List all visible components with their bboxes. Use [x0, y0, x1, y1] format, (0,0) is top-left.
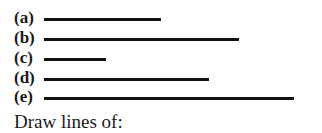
line-segment [44, 38, 239, 41]
item-label: (c) [14, 48, 44, 68]
caption: Draw lines of: [14, 111, 123, 133]
item-label: (b) [14, 28, 44, 48]
item-label: (d) [14, 68, 44, 88]
line-segment [44, 78, 209, 81]
item-a: (a) [14, 8, 44, 28]
line-segment [44, 97, 294, 100]
item-label: (e) [14, 87, 44, 107]
item-d: (d) [14, 68, 44, 88]
line-segment [44, 18, 161, 21]
item-c: (c) [14, 48, 44, 68]
line-segment [44, 58, 106, 61]
item-e: (e) [14, 87, 44, 107]
item-b: (b) [14, 28, 44, 48]
item-label: (a) [14, 8, 44, 28]
